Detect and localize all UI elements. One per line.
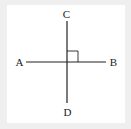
point-label-d: D [64, 106, 72, 118]
point-label-a: A [16, 56, 24, 68]
right-angle-marker [67, 51, 78, 62]
point-label-b: B [110, 56, 117, 68]
point-label-c: C [63, 8, 70, 20]
perpendicular-lines-diagram: A B C D [0, 0, 131, 129]
